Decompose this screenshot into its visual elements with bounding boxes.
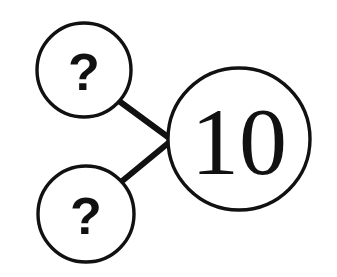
- node-part-top[interactable]: ?: [37, 23, 131, 117]
- part-top-label: ?: [68, 43, 100, 101]
- whole-label: 10: [191, 88, 287, 195]
- node-whole[interactable]: 10: [168, 68, 310, 210]
- part-bottom-label: ?: [70, 187, 102, 245]
- diagram-canvas: ? ? 10: [0, 0, 337, 277]
- node-part-bottom[interactable]: ?: [38, 166, 134, 262]
- number-bond-diagram: ? ? 10: [0, 0, 337, 277]
